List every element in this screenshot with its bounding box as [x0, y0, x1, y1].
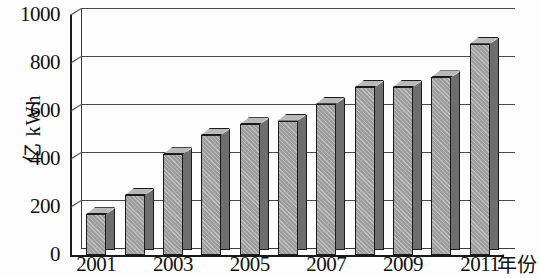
plot-area [70, 8, 525, 256]
x-axis-unit-label: 年份 [497, 254, 537, 277]
bar-front-face [201, 135, 221, 255]
bar-2010 [431, 70, 451, 255]
x-axis-tick-label: 2003 [153, 253, 193, 276]
bar-2004 [201, 128, 221, 255]
bar-side-face [183, 148, 192, 250]
bar-side-face [106, 208, 115, 250]
gridline [81, 56, 515, 57]
y-axis-tick-label: 200 [2, 196, 60, 217]
bar-side-face [490, 38, 499, 250]
bar-front-face [393, 87, 413, 255]
bar-front-face [125, 195, 145, 255]
bar-2003 [163, 147, 183, 255]
bar-front-face [278, 121, 298, 255]
y-axis-title: 亿 kWh [22, 74, 44, 184]
bar-side-face [413, 81, 422, 250]
y-axis-tick-label: 0 [2, 244, 60, 265]
gridline [81, 8, 515, 9]
tick-connector [70, 8, 82, 16]
x-axis-tick-label: 2005 [230, 253, 270, 276]
bar-side-face [451, 71, 460, 250]
bar-chart: 10008006004002000 亿 kWh 年份 2001200320052… [0, 0, 539, 278]
x-axis-tick-label: 2007 [306, 253, 346, 276]
bar-side-face [336, 98, 345, 250]
bar-side-face [260, 118, 269, 250]
bar-2001 [86, 207, 106, 255]
y-axis-line [70, 15, 72, 256]
bar-side-face [221, 129, 230, 250]
bar-front-face [431, 77, 451, 255]
bar-2005 [240, 117, 260, 255]
x-axis-tick-label: 2009 [383, 253, 423, 276]
bar-front-face [355, 87, 375, 255]
bar-2007 [316, 97, 336, 255]
bar-2009 [393, 80, 413, 255]
bar-side-face [145, 189, 154, 250]
y-axis-tick-label: 800 [2, 52, 60, 73]
x-axis-tick-labels: 年份 200120032005200720092011 [70, 253, 539, 278]
bar-front-face [86, 214, 106, 255]
bar-front-face [316, 104, 336, 255]
bar-2011 [470, 37, 490, 255]
bar-2008 [355, 80, 375, 255]
bar-side-face [375, 81, 384, 250]
y-axis-tick-label: 1000 [2, 4, 60, 25]
bar-2002 [125, 188, 145, 255]
x-axis-tick-label: 2011 [460, 253, 499, 276]
bar-front-face [240, 124, 260, 255]
bar-side-face [298, 115, 307, 250]
bar-front-face [163, 154, 183, 255]
y-axis-back-line [81, 8, 82, 248]
x-axis-tick-label: 2001 [76, 253, 116, 276]
bar-front-face [470, 44, 490, 255]
bar-2006 [278, 114, 298, 255]
